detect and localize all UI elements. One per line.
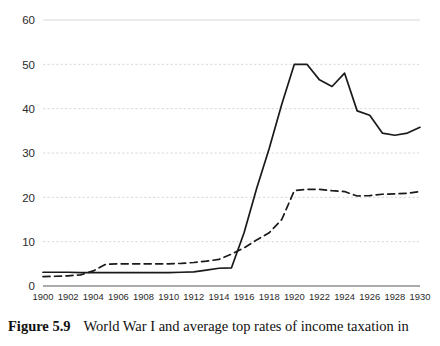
figure-caption: Figure 5.9World War I and average top ra… — [0, 318, 440, 346]
data-series-group — [43, 64, 420, 276]
data-series-line — [43, 189, 420, 276]
line-chart: 0102030405060 19001902190419061908191019… — [0, 0, 440, 300]
x-axis-tick-labels: 1900190219041906190819101912191419161918… — [33, 291, 431, 301]
x-axis-tick-label: 1914 — [209, 291, 230, 301]
x-axis-tick-label: 1912 — [183, 291, 204, 301]
y-axis-tick-label: 20 — [22, 192, 35, 204]
figure-container: 0102030405060 19001902190419061908191019… — [0, 0, 440, 346]
y-axis-tick-label: 30 — [22, 147, 35, 159]
figure-caption-label: Figure 5.9 — [0, 318, 71, 334]
x-axis-tick-label: 1928 — [384, 291, 405, 301]
x-axis-tick-label: 1924 — [334, 291, 355, 301]
figure-caption-text: World War I and average top rates of inc… — [71, 318, 409, 334]
y-axis-tick-label: 10 — [22, 236, 35, 248]
chart-plot-area: 0102030405060 19001902190419061908191019… — [0, 0, 440, 300]
x-axis-tick-label: 1916 — [234, 291, 255, 301]
x-axis-tick-label: 1910 — [158, 291, 179, 301]
x-axis-tick-label: 1920 — [284, 291, 305, 301]
y-axis-tick-label: 50 — [22, 59, 35, 71]
y-axis-tick-label: 60 — [22, 14, 35, 26]
y-axis-tick-labels: 0102030405060 — [22, 14, 35, 292]
x-axis-tick-label: 1926 — [359, 291, 380, 301]
y-axis-tick-label: 40 — [22, 103, 35, 115]
x-axis-tick-label: 1900 — [33, 291, 54, 301]
x-axis-tick-label: 1922 — [309, 291, 330, 301]
data-series-line — [43, 64, 420, 272]
x-axis-tick-label: 1904 — [83, 291, 104, 301]
x-axis-tick-label: 1908 — [133, 291, 154, 301]
x-axis-tick-label: 1930 — [410, 291, 431, 301]
gridlines-group — [43, 20, 420, 286]
x-axis-tick-label: 1918 — [259, 291, 280, 301]
x-axis-tick-label: 1906 — [108, 291, 129, 301]
x-axis-tick-label: 1902 — [58, 291, 79, 301]
